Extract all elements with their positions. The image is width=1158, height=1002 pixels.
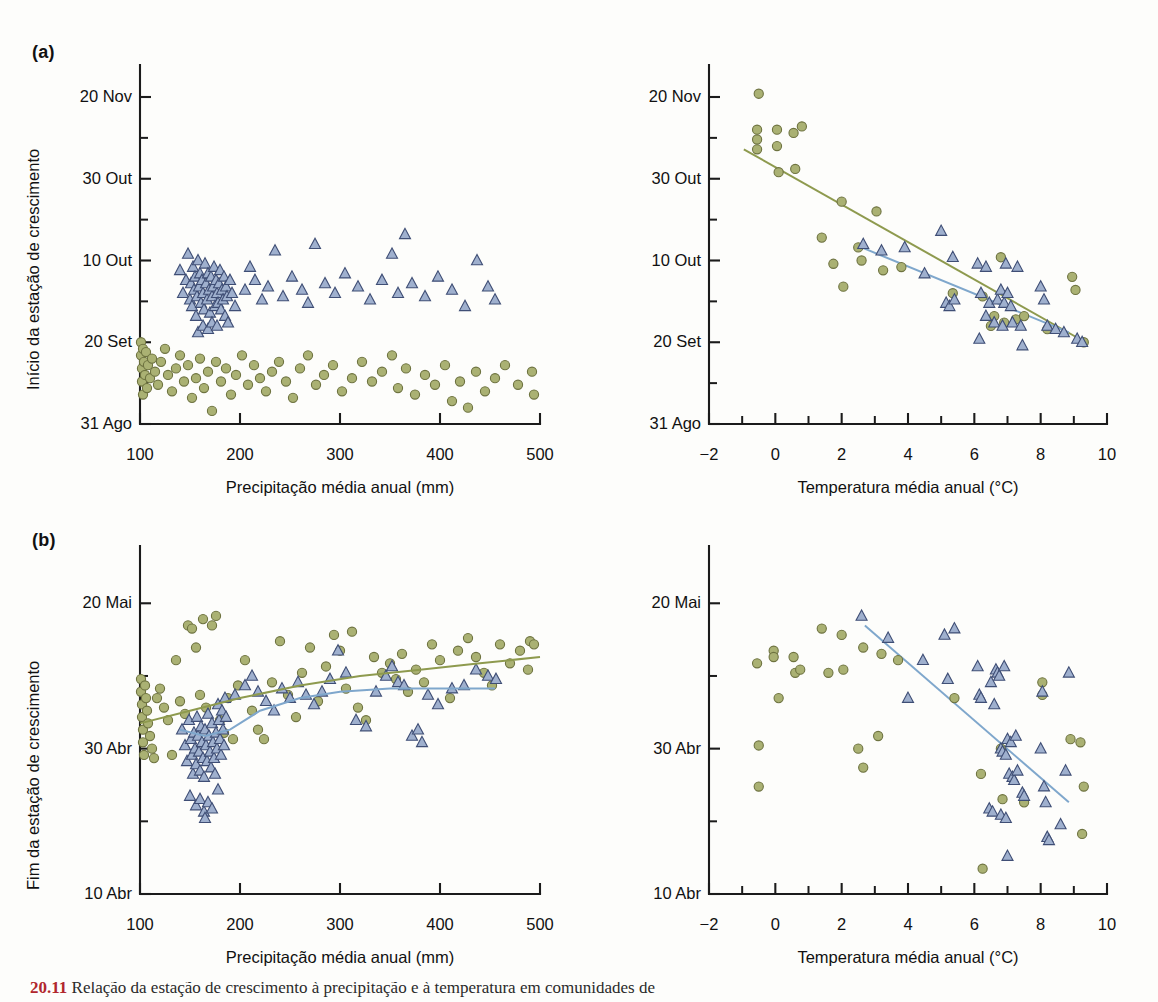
- data-point-triangle: [989, 698, 1000, 708]
- data-point-circle: [817, 624, 826, 633]
- x-tick-label: 8: [1011, 915, 1071, 934]
- data-point-triangle: [1038, 781, 1049, 791]
- data-point-circle: [859, 763, 868, 772]
- data-point-circle: [769, 652, 778, 661]
- y-tick-label: 10 Abr: [653, 884, 701, 903]
- x-tick-label: 4: [878, 915, 938, 934]
- data-point-circle: [789, 652, 798, 661]
- data-point-circle: [1076, 738, 1085, 747]
- data-point-triangle: [999, 660, 1010, 670]
- data-point-circle: [978, 864, 987, 873]
- series-triangles: [856, 610, 1074, 860]
- data-point-triangle: [1035, 743, 1046, 753]
- data-markers: [752, 610, 1088, 873]
- data-point-triangle: [949, 623, 960, 633]
- x-tick-label: 0: [745, 915, 805, 934]
- data-point-circle: [796, 665, 805, 674]
- figure-caption: 20.11 Relação da estação de crescimento …: [0, 982, 1158, 1002]
- caption-body: Relação da estação de crescimento à prec…: [72, 982, 655, 997]
- data-point-triangle: [1040, 796, 1051, 806]
- data-point-triangle: [972, 660, 983, 670]
- x-tick-label: −2: [679, 915, 739, 934]
- data-point-circle: [754, 741, 763, 750]
- data-point-triangle: [902, 692, 913, 702]
- data-point-circle: [824, 668, 833, 677]
- data-point-circle: [1066, 735, 1075, 744]
- caption-line: 20.11 Relação da estação de crescimento …: [30, 982, 655, 998]
- data-point-triangle: [1010, 730, 1021, 740]
- data-point-circle: [976, 769, 985, 778]
- caption-number: 20.11: [30, 982, 67, 997]
- plot-canvas-b-right: [0, 0, 1158, 1002]
- data-point-circle: [752, 659, 761, 668]
- data-point-triangle: [1002, 850, 1013, 860]
- data-point-circle: [1079, 782, 1088, 791]
- data-point-triangle: [1055, 818, 1066, 828]
- y-tick-label: 20 Mai: [651, 593, 701, 612]
- data-point-circle: [774, 693, 783, 702]
- data-point-circle: [854, 744, 863, 753]
- x-tick-label: 6: [944, 915, 1004, 934]
- x-tick-label: 10: [1077, 915, 1137, 934]
- data-point-circle: [859, 643, 868, 652]
- x-tick-label: 2: [812, 915, 872, 934]
- data-point-circle: [874, 731, 883, 740]
- axis-title-x: Temperatura média anual (°C): [797, 948, 1018, 967]
- trend-line-blue: [865, 625, 1069, 802]
- data-point-circle: [1078, 829, 1087, 838]
- figure-root: (a) Início da estação de crescimento (b)…: [0, 0, 1158, 1002]
- data-point-triangle: [1060, 765, 1071, 775]
- data-point-triangle: [939, 629, 950, 639]
- data-point-triangle: [917, 654, 928, 664]
- data-point-circle: [950, 693, 959, 702]
- data-point-circle: [754, 782, 763, 791]
- data-point-circle: [839, 665, 848, 674]
- data-point-triangle: [942, 673, 953, 683]
- data-point-circle: [837, 630, 846, 639]
- data-point-circle: [877, 649, 886, 658]
- data-point-triangle: [1037, 686, 1048, 696]
- data-point-triangle: [856, 610, 867, 620]
- data-point-triangle: [1012, 765, 1023, 775]
- data-point-triangle: [883, 632, 894, 642]
- data-point-circle: [893, 656, 902, 665]
- data-point-triangle: [1063, 667, 1074, 677]
- y-tick-label: 30 Abr: [653, 739, 701, 758]
- data-point-circle: [998, 795, 1007, 804]
